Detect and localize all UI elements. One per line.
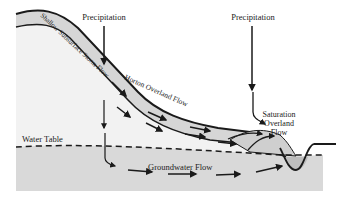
label-groundwater: Groundwater Flow: [148, 162, 213, 172]
label-saturation-2: Overland: [264, 119, 294, 128]
label-water-table: Water Table: [22, 134, 63, 144]
label-precipitation-left: Precipitation: [82, 12, 126, 22]
label-precipitation-right: Precipitation: [231, 12, 275, 22]
runoff-diagram: Precipitation Precipitation Shallow Subs…: [0, 0, 355, 199]
label-saturation-3: Flow: [271, 128, 288, 137]
groundwater-arrow: [216, 174, 240, 175]
label-saturation-1: Saturation: [263, 110, 296, 119]
